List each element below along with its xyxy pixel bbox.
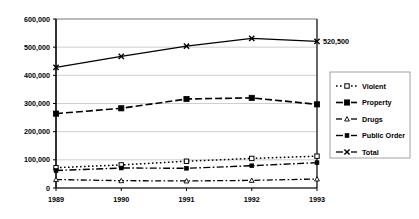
x-axis-tick-label: 1993 [309, 195, 325, 204]
y-axis-tick-label: 100,000 [24, 155, 50, 164]
x-axis-tick-labels: 19891990199119921993 [48, 195, 325, 204]
data-point-marker [345, 134, 349, 138]
data-point-marker [53, 111, 58, 116]
x-axis-tick-label: 1989 [48, 195, 64, 204]
line-chart: 0100,000200,000300,000400,000500,000600,… [0, 0, 419, 219]
legend-item-label: Drugs [362, 115, 383, 124]
y-axis-tick-label: 300,000 [24, 99, 50, 108]
data-point-marker [250, 156, 254, 160]
legend-item-label: Public Order [362, 131, 405, 140]
data-point-marker [249, 95, 254, 100]
x-axis-tick-label: 1992 [244, 195, 260, 204]
data-point-label: 520,500 [323, 37, 349, 46]
data-point-marker [315, 161, 319, 165]
legend-item-label: Violent [362, 82, 386, 91]
data-point-marker [344, 100, 349, 105]
x-axis-tick-label: 1990 [113, 195, 129, 204]
data-point-marker [314, 102, 319, 107]
data-point-marker [54, 169, 58, 173]
data-point-marker [184, 159, 188, 163]
legend: ViolentPropertyDrugsPublic OrderTotal [330, 72, 410, 158]
data-point-marker [119, 106, 124, 111]
data-point-marker [184, 96, 189, 101]
y-axis-tick-label: 500,000 [24, 43, 50, 52]
legend-item-label: Property [362, 98, 392, 107]
data-point-marker [345, 84, 349, 88]
y-axis-tick-label: 400,000 [24, 71, 50, 80]
x-axis-tick-label: 1991 [179, 195, 195, 204]
data-point-annotations: 520,500 [323, 37, 349, 46]
legend-item-label: Total [362, 148, 379, 157]
y-axis-tick-labels: 0100,000200,000300,000400,000500,000600,… [24, 15, 50, 193]
data-point-marker [250, 164, 254, 168]
y-axis-tick-label: 600,000 [24, 15, 50, 24]
data-point-marker [315, 154, 319, 158]
data-point-marker [119, 166, 123, 170]
data-point-marker [185, 166, 189, 170]
y-axis-tick-label: 200,000 [24, 127, 50, 136]
y-axis-tick-label: 0 [46, 184, 50, 193]
chart-container: 0100,000200,000300,000400,000500,000600,… [0, 0, 419, 219]
